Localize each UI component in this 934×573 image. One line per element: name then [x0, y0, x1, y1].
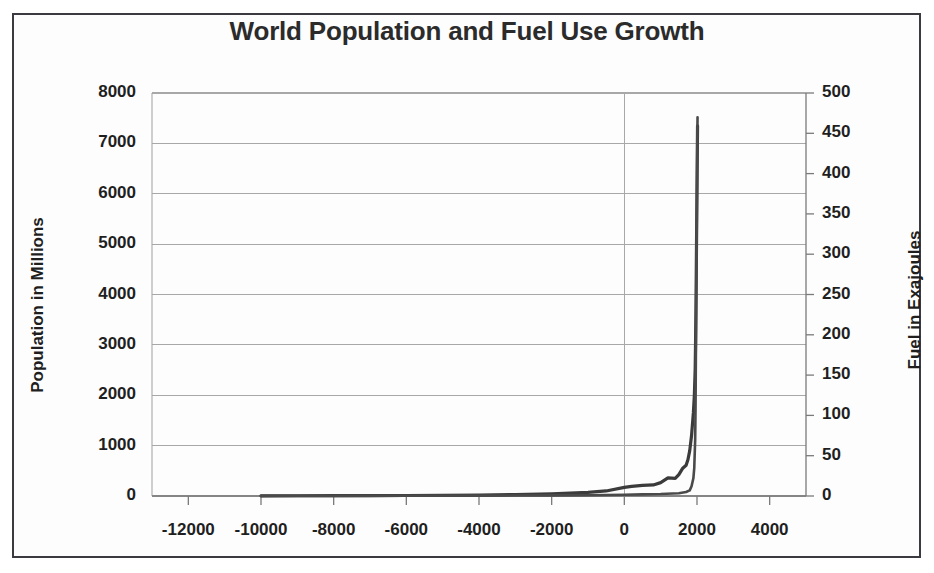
right-tick-label: 450	[822, 122, 902, 142]
right-tick-label: 300	[822, 243, 902, 263]
right-tick-label: 100	[822, 404, 902, 424]
gridlines	[152, 93, 806, 496]
tick-marks	[188, 93, 814, 505]
chart-figure: World Population and Fuel Use Growth Pop…	[0, 0, 934, 573]
plot-area	[0, 0, 934, 573]
right-axis-title: Fuel in Exajoules	[905, 170, 925, 430]
left-tick-label: 1000	[56, 435, 136, 455]
left-axis-title: Population in Millions	[28, 175, 48, 435]
right-tick-label: 350	[822, 203, 902, 223]
right-tick-label: 200	[822, 324, 902, 344]
left-tick-label: 4000	[56, 284, 136, 304]
right-tick-label: 150	[822, 364, 902, 384]
left-tick-label: 0	[56, 485, 136, 505]
left-tick-label: 5000	[56, 233, 136, 253]
series-line-1	[261, 117, 698, 496]
series-line-0	[261, 126, 698, 496]
right-tick-label: 500	[822, 82, 902, 102]
x-tick-label: 4000	[720, 520, 820, 540]
left-tick-label: 8000	[56, 82, 136, 102]
left-tick-label: 2000	[56, 384, 136, 404]
left-tick-label: 6000	[56, 183, 136, 203]
data-series	[261, 117, 698, 496]
right-tick-label: 50	[822, 445, 902, 465]
left-tick-label: 7000	[56, 132, 136, 152]
right-tick-label: 250	[822, 284, 902, 304]
left-tick-label: 3000	[56, 334, 136, 354]
right-tick-label: 400	[822, 163, 902, 183]
right-tick-label: 0	[822, 485, 902, 505]
